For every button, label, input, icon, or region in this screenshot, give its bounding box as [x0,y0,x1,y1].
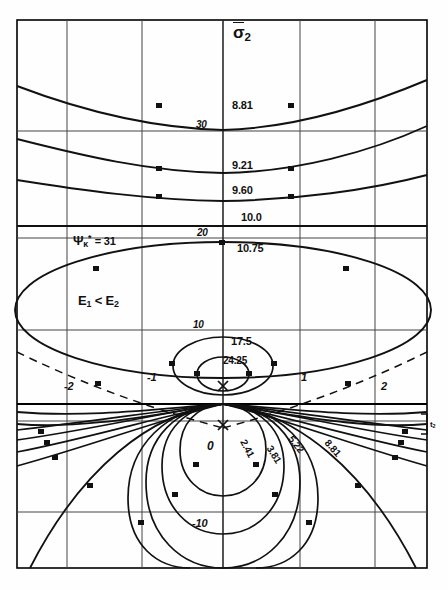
grid-label-20: 20 [197,228,208,238]
right-edge-t2-label: t2 [430,421,435,430]
psi-symbol: Ψ [73,233,83,248]
grid-label-10: 10 [193,320,204,330]
less-than-symbol: < [95,293,102,308]
energy-inequality-annotation: E1 < E2 [78,294,119,309]
x-axis-label-2: 2 [381,381,387,392]
x-axis-label-minus-1: -1 [147,372,156,383]
contour-label-881-top: 8.81 [232,100,253,111]
x-axis-label-minus-2: -2 [64,381,73,392]
contour-label-100: 10.0 [241,212,262,223]
contour-label-921: 9.21 [232,160,253,171]
contour-label-960: 9.60 [232,185,253,196]
contour-plot-svg [0,0,448,590]
grid-label-30: 30 [196,120,207,130]
grid-label-0: 0 [207,440,213,452]
page-title: σ2 [233,22,251,43]
e2-subscript: 2 [114,299,119,309]
figure-container: σ2 8.81 30 9.21 9.60 10.0 20 10.75 Ψκ* =… [0,0,448,590]
e2-symbol: E [105,293,113,308]
contour-label-175: 17.5 [231,336,252,347]
psi-superscript: * [88,233,91,243]
grid-label-minus-10: -10 [192,518,207,529]
e1-subscript: 1 [86,299,91,309]
sigma-bar-symbol: σ [233,22,244,41]
psi-kappa-annotation: Ψκ* = 31 [73,234,116,249]
psi-equals-value: = 31 [95,235,116,247]
contour-label-2425: 24.25 [223,356,247,366]
t-subscript: 2 [432,423,435,429]
sigma-subscript: 2 [244,31,250,43]
x-axis-label-1: 1 [301,372,307,383]
contour-label-1075: 10.75 [237,243,264,254]
